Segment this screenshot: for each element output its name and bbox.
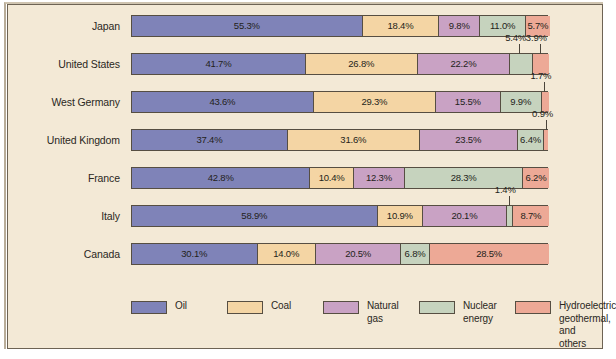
bar-segment: 28.5% [430,244,549,264]
legend-label-line: Oil [175,300,187,313]
segment-value-label: 8.7% [520,211,541,221]
row-label: Italy [8,201,120,231]
callout-leader-line [509,196,510,206]
legend-label-line: Coal [271,300,291,313]
legend-label: Hydroelectricgeothermal, andothers [559,300,616,350]
bar-segment: 20.1% [423,206,507,226]
segment-value-label: 6.8% [405,249,426,259]
callout-value-label: 5.4% [505,32,526,43]
segment-value-label: 10.4% [319,173,345,183]
row-label: West Germany [8,87,120,117]
segment-value-label: 30.1% [181,249,207,259]
chart-row: West Germany43.6%29.3%15.5%9.9%1.7%1.7% [8,87,602,117]
bar-segment: 31.6% [288,130,420,150]
chart-legend: OilCoalNaturalgasNuclearenergyHydroelect… [131,300,601,355]
segment-value-label: 20.5% [345,249,371,259]
legend-swatch [131,301,167,314]
chart-row: Canada30.1%14.0%20.5%6.8%28.5% [8,239,602,269]
segment-value-label: 15.5% [455,97,481,107]
legend-swatch [419,301,455,314]
chart-row: United Kingdom37.4%31.6%23.5%6.4%0.9%0.9… [8,125,602,155]
segment-value-label: 20.1% [451,211,477,221]
callout-leader-line [546,120,547,130]
legend-swatch [323,301,359,314]
bar-segment: 0.9% [544,130,548,150]
callout-value-label: 1.7% [530,70,551,81]
row-label: France [8,163,120,193]
legend-label: Naturalgas [367,300,399,325]
row-label: Japan [8,11,120,41]
segment-value-label: 5.7% [527,21,548,31]
legend-item[interactable]: Hydroelectricgeothermal, andothers [515,300,616,350]
bar-segment: 8.7% [513,206,549,226]
chart-row: Italy58.9%10.9%20.1%1.4%8.7%1.4% [8,201,602,231]
segment-value-label: 18.4% [387,21,413,31]
legend-label-line: Nuclear [463,300,497,313]
callout-value-label: 1.4% [495,184,516,195]
stacked-bar: 37.4%31.6%23.5%6.4%0.9% [131,129,548,151]
stacked-bar: 42.8%10.4%12.3%28.3%6.2% [131,167,548,189]
segment-value-label: 58.9% [241,211,267,221]
stacked-bar: 30.1%14.0%20.5%6.8%28.5% [131,243,548,265]
bar-segment: 29.3% [314,92,436,112]
segment-value-label: 9.9% [510,97,531,107]
bar-segment: 9.8% [439,16,480,36]
bar-segment: 12.3% [354,168,405,188]
segment-value-label: 28.3% [451,173,477,183]
bar-segment: 10.9% [378,206,423,226]
segment-value-label: 9.8% [449,21,470,31]
row-label: Canada [8,239,120,269]
callout-value-label: 3.9% [526,32,547,43]
legend-item[interactable]: Naturalgas [323,300,399,325]
segment-value-label: 28.5% [476,249,502,259]
bar-segment: 22.2% [418,54,511,74]
bar-segment: 37.4% [132,130,288,150]
bar-segment: 10.4% [310,168,353,188]
legend-item[interactable]: Nuclearenergy [419,300,497,325]
segment-value-label: 6.4% [520,135,541,145]
bar-segment: 43.6% [132,92,314,112]
bar-segment: 30.1% [132,244,258,264]
plot-area: Japan55.3%18.4%9.8%11.0%5.7%United State… [8,5,602,348]
bar-segment: 26.8% [306,54,418,74]
legend-label: Coal [271,300,291,313]
legend-label-line: energy [463,313,497,326]
segment-value-label: 10.9% [387,211,413,221]
chart-row: United States41.7%26.8%22.2%5.4%3.9%5.4%… [8,49,602,79]
bar-segment: 58.9% [132,206,378,226]
segment-value-label: 23.5% [455,135,481,145]
row-label: United States [8,49,120,79]
bar-segment: 42.8% [132,168,310,188]
callout-leader-line [519,44,520,54]
legend-item[interactable]: Oil [131,300,187,314]
chart-panel: Japan55.3%18.4%9.8%11.0%5.7%United State… [7,4,603,349]
segment-value-label: 55.3% [234,21,260,31]
legend-label: Nuclearenergy [463,300,497,325]
segment-value-label: 41.7% [205,59,231,69]
segment-value-label: 11.0% [490,21,515,31]
bar-segment: 6.8% [401,244,429,264]
segment-value-label: 12.3% [366,173,392,183]
stacked-bar: 43.6%29.3%15.5%9.9%1.7% [131,91,548,113]
bar-segment: 6.4% [518,130,545,150]
segment-value-label: 29.3% [361,97,387,107]
legend-label-line: geothermal, and [559,313,616,338]
bar-segment: 55.3% [132,16,363,36]
callout-leader-line [544,82,545,92]
segment-value-label: 43.6% [209,97,235,107]
legend-item[interactable]: Coal [227,300,291,314]
stacked-bar: 58.9%10.9%20.1%1.4%8.7% [131,205,548,227]
bar-segment: 5.4% [510,54,533,74]
legend-label-line: gas [367,313,399,326]
legend-label: Oil [175,300,187,313]
row-label: United Kingdom [8,125,120,155]
segment-value-label: 42.8% [208,173,234,183]
segment-value-label: 14.0% [273,249,299,259]
bar-segment: 41.7% [132,54,306,74]
segment-value-label: 6.2% [526,173,547,183]
bar-segment: 23.5% [420,130,518,150]
legend-swatch [515,301,551,314]
stacked-bar: 55.3%18.4%9.8%11.0%5.7% [131,15,548,37]
legend-label-line: Hydroelectric [559,300,616,313]
